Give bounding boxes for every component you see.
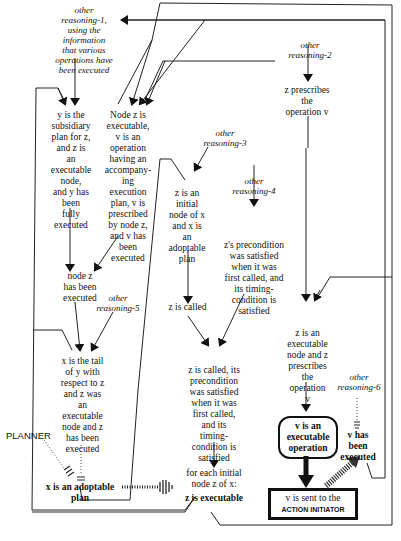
z-precondition-satisfied: z's preconditionwas satisfiedwhen it was… — [218, 240, 290, 317]
planner-label: PLANNER — [6, 430, 51, 441]
other-reasoning-5: otherreasoning-5 — [93, 293, 143, 313]
action-initiator-box: v is sent to the ACTION INITIATOR — [268, 488, 358, 520]
x-adoptable-plan: x is an adoptableplan — [38, 482, 122, 504]
z-is-executable: z is executable — [178, 493, 250, 504]
for-each-initial-node: for each initialnode z of x: z is execut… — [178, 468, 250, 504]
z-executable-prescribes-v: z is anexecutablenode and zprescribesthe… — [280, 328, 335, 405]
other-reasoning-6: otherreasoning-6 — [334, 372, 384, 392]
other-reasoning-4: otherreasoning-4 — [224, 176, 284, 196]
v-executable-operation: v is anexecutableoperation — [278, 416, 338, 459]
node-z-executable: Node z isexecutable,v is anoperationhavi… — [102, 110, 154, 264]
other-reasoning-3: otherreasoning-3 — [195, 128, 255, 148]
z-called-precondition: z is called, itspreconditionwas satisfie… — [180, 365, 248, 464]
v-has-been-executed: v hasbeenexecuted — [337, 430, 379, 463]
y-subsidiary-plan: y is thesubsidiaryplan for z,and z isane… — [45, 110, 97, 231]
z-prescribes-v: z prescribestheoperation v — [275, 85, 339, 118]
x-tail-of-y: x is the tailof y withrespect to zand z … — [55, 356, 110, 455]
z-is-called: z is called — [160, 302, 215, 313]
z-initial-node: z is aninitialnode of xand x isanadoptab… — [162, 188, 212, 265]
other-reasoning-1: otherreasoning-1,using theinformationtha… — [40, 5, 128, 75]
other-reasoning-2: otherreasoning-2 — [280, 40, 340, 60]
